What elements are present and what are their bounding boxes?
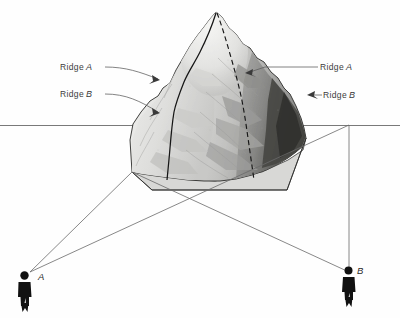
label-ridge-b-right: RidgeB xyxy=(323,91,355,100)
label-ridge-a-right-letter: A xyxy=(344,62,352,72)
label-ridge-b-left: RidgeB xyxy=(60,90,92,99)
label-ridge-b-left-text: Ridge xyxy=(60,89,84,99)
observer-a-head xyxy=(20,271,28,279)
label-ridge-b-right-text: Ridge xyxy=(323,90,347,100)
label-ridge-b-right-letter: B xyxy=(347,90,355,100)
observer-b-body xyxy=(342,277,356,300)
label-ridge-a-left: RidgeA xyxy=(60,63,92,72)
label-ridge-a-left-letter: A xyxy=(84,62,92,72)
label-observer-a: A xyxy=(38,271,44,282)
figure-container: RidgeA RidgeB RidgeA RidgeB A B xyxy=(0,0,400,318)
observer-a-body xyxy=(18,282,32,306)
label-ridge-a-right-text: Ridge xyxy=(320,62,344,72)
label-observer-b: B xyxy=(357,265,363,276)
label-ridge-a-right: RidgeA xyxy=(320,63,352,72)
label-ridge-a-left-text: Ridge xyxy=(60,62,84,72)
diagram-canvas xyxy=(0,0,400,318)
observer-b-head xyxy=(345,267,353,275)
observer-a-legs xyxy=(21,303,29,312)
leader-ridge-a-left xyxy=(105,67,158,79)
observer-a-silhouette xyxy=(18,271,32,312)
mountain-relief-model xyxy=(130,8,306,190)
sight-line-a-near xyxy=(30,172,132,272)
label-ridge-b-left-letter: B xyxy=(84,89,92,99)
observer-b-legs xyxy=(345,297,353,307)
observer-b-silhouette xyxy=(342,267,356,308)
